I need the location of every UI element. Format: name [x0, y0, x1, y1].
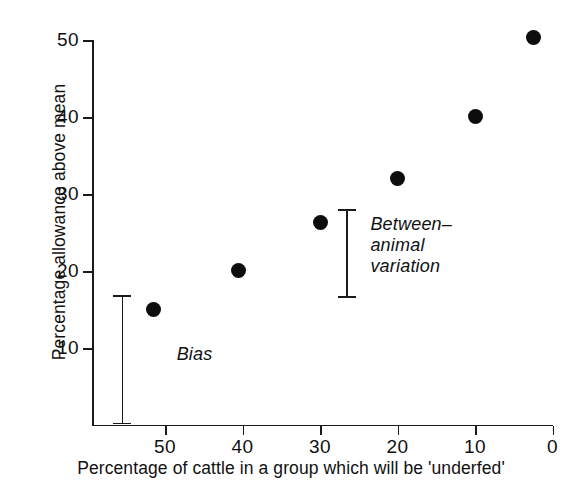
y-axis-tick-50 — [83, 40, 92, 42]
data-point-2 — [313, 215, 328, 230]
y-axis-line — [92, 40, 94, 426]
between-animal-variation-error-bar — [338, 209, 356, 297]
between-animal-variation-error-bar-stem — [346, 209, 348, 297]
y-axis-tick-20 — [83, 271, 92, 273]
between-animal-variation-annotation-label: Between– animal variation — [370, 214, 452, 277]
data-point-1 — [231, 263, 246, 278]
x-axis-tick-label-20: 20 — [373, 437, 423, 457]
data-point-5 — [526, 30, 541, 45]
between-animal-variation-error-bar-bottom-cap — [338, 296, 356, 298]
bias-annotation-label: Bias — [177, 344, 213, 365]
y-axis-tick-30 — [83, 194, 92, 196]
x-axis-tick-label-50: 50 — [140, 437, 190, 457]
y-axis-tick-label-50: 50 — [37, 30, 79, 49]
scatter-chart-figure: 50 40 30 20 10 50 40 30 20 10 0 Percenta… — [0, 0, 582, 488]
data-point-0 — [146, 302, 161, 317]
bias-error-bar — [113, 295, 131, 424]
y-axis-tick-40 — [83, 117, 92, 119]
x-axis-tick-50 — [165, 426, 167, 435]
y-axis-tick-10 — [83, 348, 92, 350]
y-axis-title: Percentage allowance above mean — [50, 57, 68, 387]
x-axis-tick-40 — [243, 426, 245, 435]
x-axis-title: Percentage of cattle in a group which wi… — [0, 459, 582, 478]
bias-error-bar-stem — [122, 295, 124, 424]
x-axis-line — [92, 425, 553, 427]
x-axis-tick-0 — [553, 426, 555, 435]
x-axis-tick-20 — [398, 426, 400, 435]
x-axis-tick-30 — [320, 426, 322, 435]
x-axis-tick-label-10: 10 — [450, 437, 500, 457]
x-axis-tick-label-40: 40 — [218, 437, 268, 457]
data-point-4 — [468, 109, 483, 124]
x-axis-tick-10 — [475, 426, 477, 435]
bias-error-bar-bottom-cap — [113, 423, 131, 425]
data-point-3 — [390, 171, 405, 186]
x-axis-tick-label-30: 30 — [295, 437, 345, 457]
x-axis-tick-label-0: 0 — [528, 437, 578, 457]
